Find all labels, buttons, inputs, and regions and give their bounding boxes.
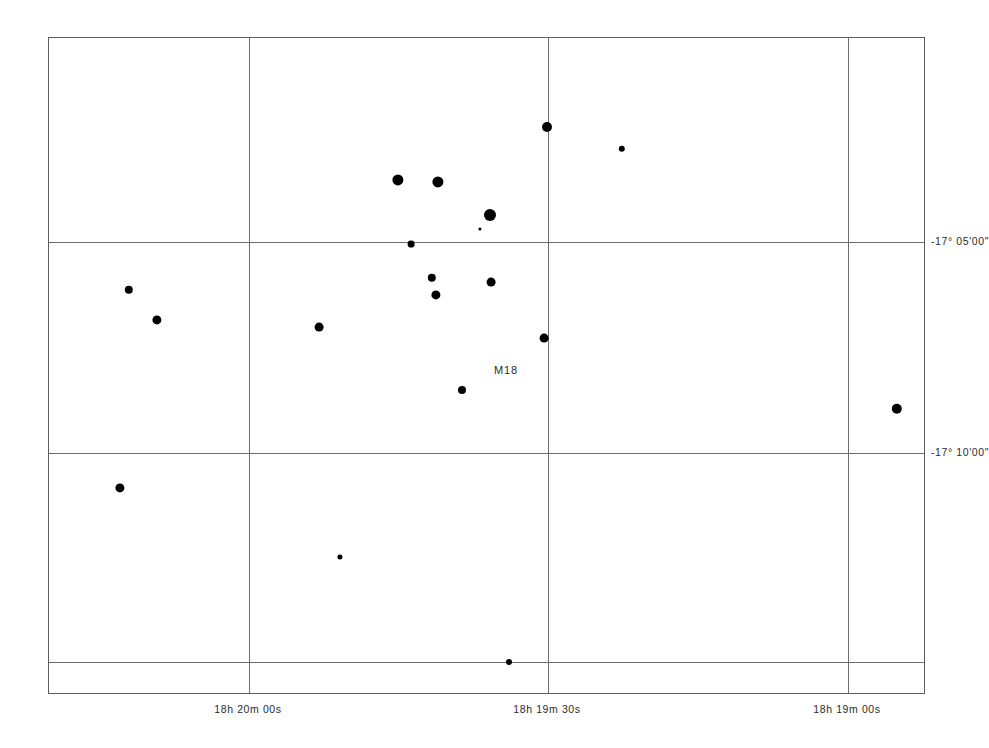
dec-tick-label-1: -17° 10'00" (931, 446, 989, 458)
star-marker (315, 323, 324, 332)
star-marker (487, 278, 496, 287)
ra-gridline (548, 38, 549, 693)
star-marker (458, 386, 466, 394)
ra-tick-label-1: 18h 19m 30s (513, 703, 580, 715)
dec-gridline (49, 662, 924, 663)
star-marker (152, 315, 161, 324)
object-label-m18: M18 (494, 364, 518, 376)
dec-gridline (49, 242, 924, 243)
dec-gridline (49, 453, 924, 454)
star-marker (337, 554, 342, 559)
star-marker (428, 274, 436, 282)
star-marker (484, 209, 496, 221)
star-marker (542, 122, 552, 132)
ra-gridline (848, 38, 849, 693)
dec-tick-label-0: -17° 05'00" (931, 235, 989, 247)
star-marker (125, 286, 133, 294)
star-marker (619, 146, 625, 152)
plot-frame: M18 (48, 37, 925, 694)
star-marker (540, 334, 549, 343)
ra-tick-label-2: 18h 19m 00s (813, 703, 880, 715)
ra-tick-label-0: 18h 20m 00s (214, 703, 281, 715)
star-marker (432, 176, 443, 187)
star-marker (478, 227, 481, 230)
ra-gridline (249, 38, 250, 693)
star-marker (506, 659, 512, 665)
star-marker (392, 174, 403, 185)
star-marker (431, 290, 440, 299)
star-marker (408, 241, 415, 248)
star-marker (892, 404, 902, 414)
star-marker (115, 483, 124, 492)
